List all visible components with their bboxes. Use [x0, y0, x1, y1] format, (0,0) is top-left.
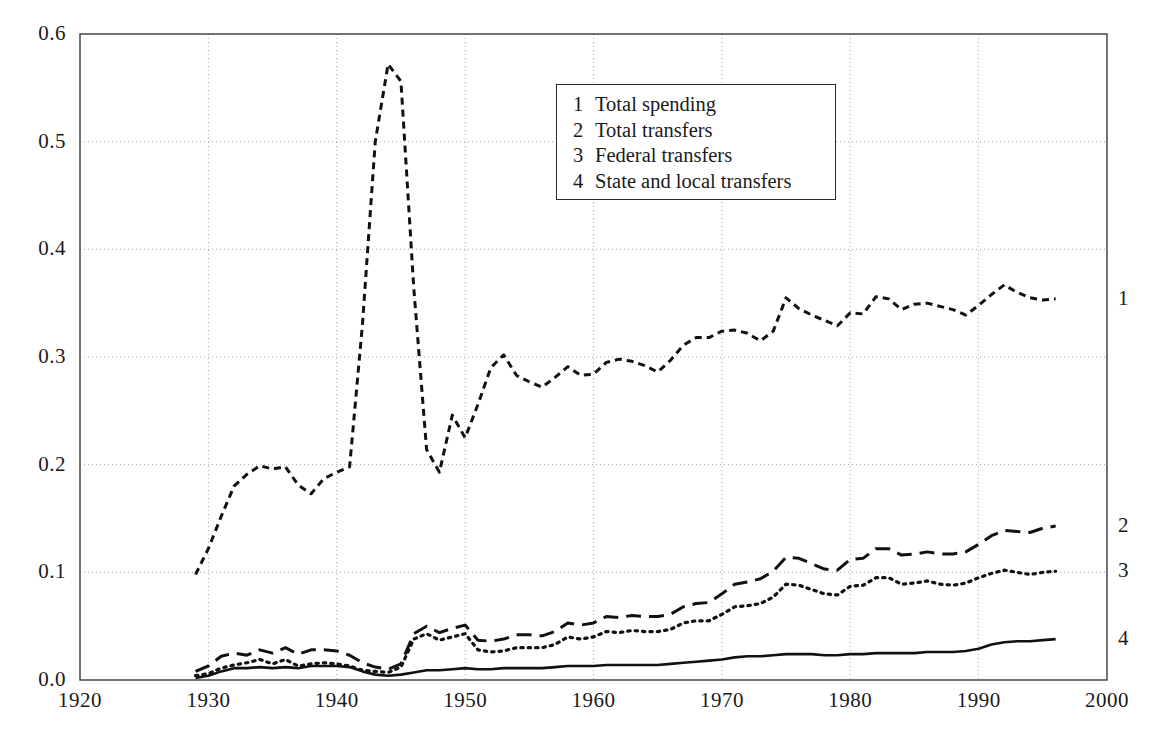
legend-item-1: 1Total spending: [573, 92, 835, 118]
chart-figure: 0.00.10.20.30.40.50.6 192019301940195019…: [0, 0, 1163, 747]
legend-item-label: Total spending: [595, 93, 716, 115]
y-tick-label: 0.5: [4, 129, 66, 154]
x-tick-label: 1960: [554, 688, 634, 713]
x-tick-label: 1940: [297, 688, 377, 713]
legend-item-4: 4State and local transfers: [573, 169, 835, 195]
legend-item-label: State and local transfers: [595, 170, 791, 192]
legend-item-key: 2: [573, 118, 595, 144]
series-end-label-4: 4: [1118, 626, 1129, 651]
series-end-label-2: 2: [1118, 513, 1129, 538]
series-line-4: [196, 639, 1056, 678]
legend-item-key: 4: [573, 169, 595, 195]
legend-item-key: 1: [573, 92, 595, 118]
x-tick-label: 1970: [682, 688, 762, 713]
legend-item-key: 3: [573, 143, 595, 169]
x-tick-label: 1980: [810, 688, 890, 713]
series-line-3: [196, 570, 1056, 676]
y-tick-label: 0.4: [4, 236, 66, 261]
legend-item-2: 2Total transfers: [573, 118, 835, 144]
x-tick-label: 2000: [1067, 688, 1147, 713]
x-tick-label: 1930: [168, 688, 248, 713]
x-tick-label: 1920: [40, 688, 120, 713]
legend-item-3: 3Federal transfers: [573, 143, 835, 169]
x-tick-label: 1990: [939, 688, 1019, 713]
legend-list: 1Total spending2Total transfers3Federal …: [557, 85, 835, 194]
legend: 1Total spending2Total transfers3Federal …: [556, 84, 836, 200]
legend-item-label: Total transfers: [595, 119, 713, 141]
y-tick-label: 0.6: [4, 21, 66, 46]
series-line-2: [196, 526, 1056, 671]
legend-item-label: Federal transfers: [595, 144, 732, 166]
y-tick-label: 0.1: [4, 559, 66, 584]
y-tick-label: 0.2: [4, 452, 66, 477]
series-end-label-1: 1: [1118, 286, 1129, 311]
x-tick-label: 1950: [425, 688, 505, 713]
series-end-label-3: 3: [1118, 558, 1129, 583]
y-tick-label: 0.3: [4, 344, 66, 369]
